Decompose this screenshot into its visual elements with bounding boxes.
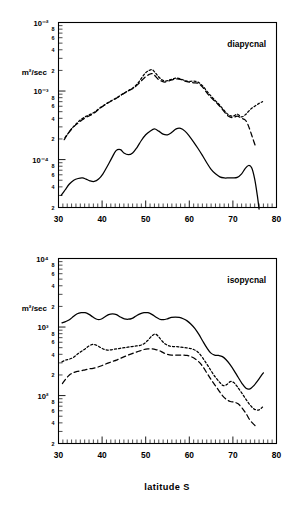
y-axis-minor-label: 4 [52, 420, 55, 426]
y-axis-minor-label: 8 [52, 163, 55, 169]
y-axis-minor-label: 6 [52, 271, 55, 277]
x-axis-tick-label: 60 [185, 450, 195, 460]
y-axis-labels-bottom: 246810²246810³246810⁴ [36, 255, 54, 447]
chart-panel-diapycnal: 246810⁻⁴246810⁻³246810⁻² 304050607080 m²… [0, 0, 296, 250]
panel-annotation-diapycnal: diapycnal [227, 39, 266, 49]
x-axis-ticks-top [59, 201, 277, 208]
x-axis-ticks-bottom [59, 437, 277, 444]
y-axis-minor-label: 2 [52, 441, 55, 447]
curve-dotted [62, 334, 263, 410]
x-axis-tick-label: 30 [54, 214, 64, 224]
y-axis-unit-label-top: m²/sec [22, 68, 48, 77]
y-axis-decade-label: 10⁴ [36, 255, 48, 264]
x-axis-tick-label: 70 [228, 214, 238, 224]
y-axis-minor-label: 2 [52, 205, 55, 211]
x-axis-title: latitude S [144, 482, 189, 492]
x-axis-tick-label: 70 [228, 450, 238, 460]
diapycnal-svg: 246810⁻⁴246810⁻³246810⁻² 304050607080 m²… [0, 0, 296, 250]
x-axis-labels-top: 304050607080 [54, 214, 282, 224]
x-axis-tick-label: 80 [272, 450, 282, 460]
y-axis-ticks-top [59, 23, 66, 208]
curve-dotted [65, 70, 263, 138]
y-axis-minor-label: 4 [52, 283, 55, 289]
isopycnal-axes [59, 259, 277, 444]
y-axis-ticks-bottom [59, 259, 66, 444]
y-axis-decade-label: 10⁻⁴ [32, 156, 48, 165]
curve-dashed [64, 74, 255, 147]
panel-annotation-isopycnal: isopycnal [227, 275, 266, 285]
figure-root: 246810⁻⁴246810⁻³246810⁻² 304050607080 m²… [0, 0, 296, 513]
y-axis-minor-label: 8 [52, 95, 55, 101]
isopycnal-curves [62, 313, 263, 427]
x-axis-tick-label: 60 [185, 214, 195, 224]
x-axis-tick-label: 40 [97, 214, 107, 224]
x-axis-tick-label: 30 [54, 450, 64, 460]
x-axis-labels-bottom: 304050607080 [54, 450, 282, 460]
y-axis-minor-label: 4 [52, 47, 55, 53]
y-axis-unit-label-bottom: m²/sec [22, 304, 48, 313]
y-axis-minor-label: 6 [52, 103, 55, 109]
x-axis-tick-label: 50 [141, 214, 151, 224]
y-axis-decade-label: 10² [38, 392, 49, 401]
y-axis-minor-label: 8 [52, 331, 55, 337]
diapycnal-curves [61, 70, 262, 209]
x-axis-tick-label: 40 [97, 450, 107, 460]
y-axis-minor-label: 8 [52, 262, 55, 268]
x-axis-tick-label: 50 [141, 450, 151, 460]
y-axis-decade-label: 10⁻² [34, 19, 49, 28]
y-axis-minor-label: 6 [52, 408, 55, 414]
y-axis-minor-label: 4 [52, 184, 55, 190]
chart-panel-isopycnal: 246810²246810³246810⁴ 304050607080 m²/se… [0, 250, 296, 513]
y-axis-minor-label: 2 [52, 68, 55, 74]
y-axis-minor-label: 8 [52, 26, 55, 32]
curve-solid [61, 128, 259, 209]
isopycnal-svg: 246810²246810³246810⁴ 304050607080 m²/se… [0, 250, 296, 513]
y-axis-minor-label: 6 [52, 172, 55, 178]
y-axis-decade-label: 10³ [38, 323, 49, 332]
y-axis-minor-label: 2 [52, 372, 55, 378]
x-axis-tick-label: 80 [272, 214, 282, 224]
y-axis-minor-label: 2 [52, 304, 55, 310]
y-axis-minor-label: 4 [52, 116, 55, 122]
plot-frame [59, 259, 277, 444]
y-axis-minor-label: 6 [52, 35, 55, 41]
y-axis-minor-label: 6 [52, 339, 55, 345]
y-axis-minor-label: 8 [52, 399, 55, 405]
y-axis-minor-label: 4 [52, 352, 55, 358]
curve-solid [62, 313, 263, 390]
y-axis-decade-label: 10⁻³ [34, 87, 49, 96]
y-axis-minor-label: 2 [52, 136, 55, 142]
y-axis-labels-top: 246810⁻⁴246810⁻³246810⁻² [32, 19, 54, 211]
